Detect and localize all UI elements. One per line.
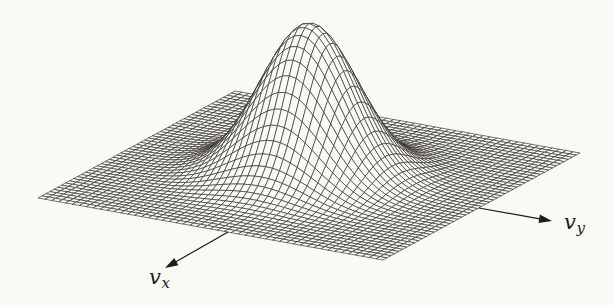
vx-axis-line	[175, 232, 228, 263]
vy-axis-label: vy	[564, 210, 585, 237]
velocity-distribution-surface-plot: vxvy	[0, 0, 614, 305]
vx-axis: vx	[149, 232, 228, 292]
vx-arrowhead-icon	[165, 258, 178, 268]
wireframe-mesh	[38, 23, 580, 260]
vx-axis-label: vx	[149, 265, 170, 292]
textbook-figure-page: vxvy	[0, 0, 614, 305]
vy-axis: vy	[479, 208, 585, 237]
vy-axis-line	[479, 208, 541, 219]
vy-arrowhead-icon	[539, 215, 553, 223]
